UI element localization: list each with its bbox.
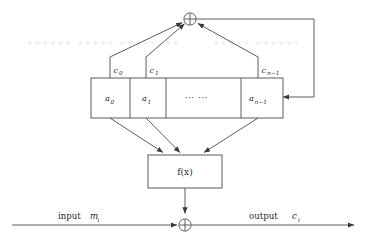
tap-label-cn1-base: c (262, 65, 267, 75)
tap-label-cn1-sub: n−1 (267, 70, 279, 76)
register-cell-an1-sub: n−1 (255, 99, 267, 105)
cell-to-function-wire-an1 (204, 118, 258, 153)
output-label-var: c (292, 211, 297, 221)
output-label-text: output (249, 211, 278, 221)
tap-label-c1: c 1 (150, 65, 159, 77)
tap-label-cn1: c n−1 (262, 65, 280, 77)
feedback-xor-node (184, 13, 196, 25)
output-xor-node (179, 219, 191, 231)
register-cell-a1-base: a (142, 93, 147, 103)
input-label-sub: i (98, 217, 100, 223)
lfsr-diagram: •••••• ••••• •••••••• ••••• •••••• (0, 0, 367, 245)
shift-register: a 0 a 1 ··· ··· a n−1 (91, 78, 283, 118)
function-box-label: f(x) (177, 167, 192, 177)
tap-label-c1-sub: 1 (155, 70, 159, 76)
tap-label-c1-base: c (150, 65, 155, 75)
diagram-canvas: •••••• ••••• •••••••• ••••• •••••• (0, 0, 367, 245)
register-cell-a1-sub: 1 (148, 99, 152, 105)
cell-to-function-wire-a1 (146, 118, 180, 153)
register-cell-ellipsis-label: ··· ··· (185, 93, 208, 103)
register-cell-a0-sub: 0 (111, 99, 115, 105)
register-cell-an1-base: a (249, 93, 254, 103)
svg-text:•••••• ••••• ••••••••: •••••• ••••• •••••••• (26, 36, 180, 51)
tap-label-c0-base: c (114, 65, 119, 75)
cell-to-function-wire-a0 (110, 118, 163, 153)
output-label: output c i (249, 211, 300, 223)
tap-label-c0: c 0 (114, 65, 124, 77)
input-label: input m i (58, 211, 100, 223)
tap-label-c0-sub: 0 (119, 70, 123, 76)
background-watermark: •••••• ••••• •••••••• ••••• •••••• (26, 36, 300, 51)
register-cell-ellipsis: ··· ··· (185, 93, 208, 103)
output-label-sub: i (298, 217, 300, 223)
input-label-text: input (58, 211, 81, 221)
register-cell-a0-base: a (105, 93, 110, 103)
function-box: f(x) (148, 155, 222, 188)
